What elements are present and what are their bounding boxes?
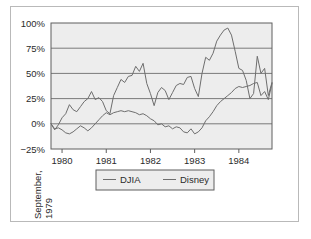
chart-figure: −25%0%25%50%75%100% 19801981198219831984… (0, 0, 311, 239)
x-axis-tick-labels: 19801981198219831984 (51, 155, 249, 166)
x-axis-title-line2: 1979 (43, 198, 54, 219)
x-axis-title-line1: September, (32, 170, 43, 219)
x-axis-tick-label: 1983 (184, 155, 205, 166)
y-axis-tick-label: 0% (31, 118, 45, 129)
x-axis-title: September, 1979 (32, 170, 54, 219)
chart-legend: DJIADisney (96, 170, 214, 190)
x-axis-tick-label: 1980 (51, 155, 72, 166)
y-axis-tick-label: 75% (26, 43, 46, 54)
legend-label: DJIA (120, 174, 141, 185)
stock-performance-line-chart: −25%0%25%50%75%100% 19801981198219831984… (0, 0, 311, 239)
x-axis-tick-label: 1982 (140, 155, 161, 166)
y-axis-tick-label: 100% (21, 18, 46, 29)
x-axis-tick-label: 1984 (228, 155, 249, 166)
x-axis-ticks (62, 149, 239, 153)
y-axis-tick-label: 50% (26, 68, 46, 79)
y-axis-tick-label: −25% (20, 144, 45, 155)
y-axis-tick-labels: −25%0%25%50%75%100% (20, 18, 45, 155)
y-axis-tick-label: 25% (26, 93, 46, 104)
x-axis-tick-label: 1981 (96, 155, 117, 166)
legend-label: Disney (180, 174, 209, 185)
